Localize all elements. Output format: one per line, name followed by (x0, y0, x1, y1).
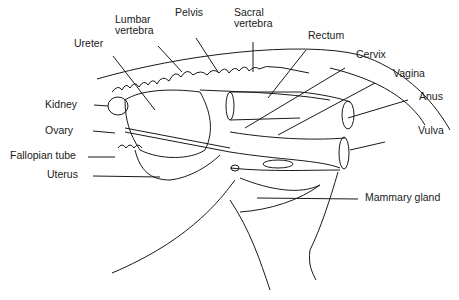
uterus-shape (135, 150, 220, 180)
label-sacral-vertebra: Sacral vertebra (234, 7, 273, 29)
label-pelvis: Pelvis (175, 7, 203, 18)
label-mammary-gland: Mammary gland (365, 192, 440, 203)
label-anus: Anus (419, 91, 443, 102)
vertebral-column (112, 66, 309, 92)
label-cervix: Cervix (356, 49, 386, 60)
back-outline (97, 49, 450, 130)
label-fallopian-tube: Fallopian tube (10, 150, 76, 161)
anus-shape (342, 101, 354, 129)
label-vagina: Vagina (393, 68, 425, 79)
label-kidney: Kidney (45, 99, 77, 110)
label-rectum: Rectum (308, 30, 344, 41)
label-ureter: Ureter (74, 38, 103, 49)
label-vulva: Vulva (418, 125, 444, 136)
label-uterus: Uterus (47, 169, 78, 180)
label-ovary: Ovary (45, 125, 73, 136)
label-lumbar-vertebra: Lumbar vertebra (115, 14, 154, 36)
